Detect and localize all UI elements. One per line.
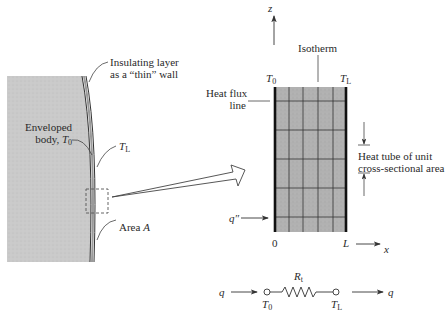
right-wall-temp-sub: L (346, 77, 351, 86)
outer-temp-sub: L (125, 145, 130, 154)
enveloped-body-label: Enveloped body, T0 (25, 121, 72, 149)
heat-flux-line-label-line1: Heat flux (206, 87, 246, 99)
resistance-symbol: R (294, 270, 301, 282)
circuit-output-q: q (388, 286, 394, 298)
x-axis-label: x (384, 243, 389, 255)
right-wall-temp-label: TL (340, 72, 351, 88)
heat-tube-label-line2: cross-sectional area (358, 162, 444, 174)
z-axis-label: z (268, 2, 272, 14)
heat-tube-label-line1: Heat tube of unit (358, 150, 444, 162)
outer-temp-leader (97, 146, 116, 167)
body-temp-sub: 0 (68, 138, 72, 147)
body-label-line1: Enveloped (25, 121, 72, 133)
right-node-sub: L (337, 303, 342, 312)
slab (274, 87, 347, 232)
area-symbol: A (143, 221, 150, 233)
circuit-left-node-label: T0 (262, 298, 272, 314)
resistance-label: Rt (294, 270, 303, 286)
area-label: Area A (119, 221, 150, 233)
origin-label: 0 (272, 237, 278, 249)
insulating-layer-label-line2: as a “thin” wall (110, 68, 179, 80)
enveloped-body (7, 76, 95, 262)
area-label-text: Area (119, 221, 143, 233)
heat-flux-symbol: q″ (229, 212, 239, 224)
body-label-line2: body, (35, 133, 62, 145)
left-wall-temp-label: T0 (266, 72, 276, 88)
insulating-layer-leader (89, 62, 108, 82)
thermal-circuit (231, 287, 383, 297)
left-wall-temp-sub: 0 (272, 77, 276, 86)
area-leader (97, 220, 116, 240)
isotherm-label: Isotherm (298, 42, 337, 54)
length-label: L (343, 237, 349, 249)
circuit-right-node-label: TL (331, 298, 342, 314)
resistance-sub: t (301, 275, 303, 284)
outer-temp-label: TL (119, 140, 130, 156)
insulating-layer-label: Insulating layer as a “thin” wall (110, 56, 179, 80)
zoom-arrow (112, 165, 245, 197)
heat-flux-line-label: Heat flux line (206, 87, 246, 111)
heat-flux-line-label-line2: line (206, 99, 246, 111)
left-node-sub: 0 (268, 303, 272, 312)
insulating-layer-label-line1: Insulating layer (110, 56, 179, 68)
heat-tube-label: Heat tube of unit cross-sectional area (358, 150, 444, 174)
circuit-input-q: q (219, 286, 225, 298)
